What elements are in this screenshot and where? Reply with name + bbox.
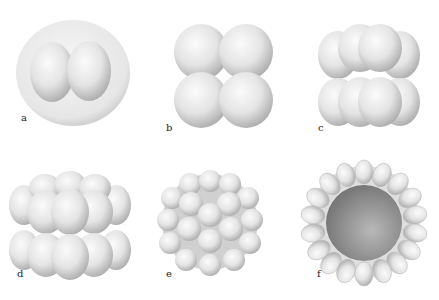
panel-label-f: f xyxy=(317,268,321,279)
cleavage-figure xyxy=(0,0,439,300)
panel-e-morula xyxy=(157,170,263,276)
panel-label-c: c xyxy=(318,122,324,133)
panel-c-eight-cell xyxy=(318,24,420,127)
panel-a-two-cell xyxy=(16,20,130,126)
panel-label-e: e xyxy=(166,268,172,279)
panel-b-four-cell xyxy=(174,24,273,128)
panel-label-b: b xyxy=(166,122,172,133)
panel-label-a: a xyxy=(21,112,27,123)
panel-d-sixteen-cell xyxy=(9,171,131,280)
panel-label-d: d xyxy=(17,268,23,279)
